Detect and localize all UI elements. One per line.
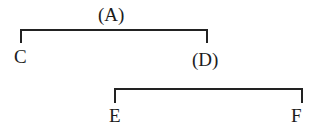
- bracket-a-left-leg: [20, 29, 22, 43]
- node-label-d: (D): [192, 50, 218, 69]
- bracket-a-horizontal: [20, 29, 208, 31]
- bracket-d-left-leg: [114, 88, 116, 103]
- node-label-c: C: [14, 47, 27, 66]
- node-label-a: (A): [98, 5, 124, 24]
- node-label-e: E: [109, 106, 121, 125]
- bracket-d-right-leg: [301, 88, 303, 103]
- bracket-a-right-leg: [206, 29, 208, 43]
- node-label-f: F: [291, 106, 302, 125]
- tree-diagram: (A) C (D) E F: [0, 0, 317, 131]
- bracket-d-horizontal: [114, 88, 303, 90]
